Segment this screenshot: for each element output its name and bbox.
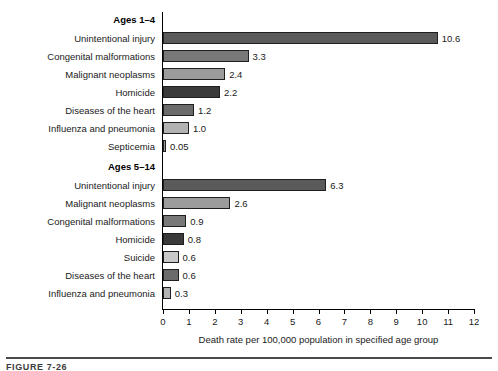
bar [163, 215, 186, 227]
x-tick [267, 310, 268, 314]
x-tick-label: 8 [360, 316, 380, 328]
x-tick [370, 310, 371, 314]
bar-row: Diseases of the heart0.6 [0, 268, 498, 283]
x-tick-label: 2 [205, 316, 225, 328]
bar-category-label: Malignant neoplasms [0, 67, 155, 82]
bar-value-label: 2.2 [224, 85, 237, 100]
x-tick [474, 310, 475, 314]
x-tick [215, 310, 216, 314]
x-tick-label: 1 [179, 316, 199, 328]
bar-category-label: Septicemia [0, 139, 155, 154]
bar-value-label: 6.3 [330, 178, 343, 193]
bar-category-label: Diseases of the heart [0, 103, 155, 118]
bar-row: Septicemia0.05 [0, 139, 498, 154]
x-tick-label: 3 [231, 316, 251, 328]
figure-caption: FIGURE 7-26 [6, 362, 67, 371]
bar-row: Unintentional injury6.3 [0, 178, 498, 193]
x-tick-label: 11 [438, 316, 458, 328]
bar-value-label: 3.3 [253, 49, 266, 64]
bar [163, 50, 249, 62]
x-tick [422, 310, 423, 314]
bar [163, 122, 189, 134]
x-tick-label: 7 [334, 316, 354, 328]
chart-plot-area: Ages 1–4Unintentional injury10.6Congenit… [0, 0, 498, 310]
bar-category-label: Diseases of the heart [0, 268, 155, 283]
bar-row: Influenza and pneumonia1.0 [0, 121, 498, 136]
panel-title-1: Ages 1–4 [0, 14, 155, 26]
bar-value-label: 0.8 [188, 232, 201, 247]
x-tick [293, 310, 294, 314]
bar [163, 86, 220, 98]
bar-row: Congenital malformations3.3 [0, 49, 498, 64]
bar-category-label: Unintentional injury [0, 31, 155, 46]
bar-value-label: 0.6 [183, 250, 196, 265]
x-tick-label: 5 [283, 316, 303, 328]
bar [163, 269, 179, 281]
x-tick-label: 10 [412, 316, 432, 328]
bar [163, 251, 179, 263]
x-tick [189, 310, 190, 314]
bar-row: Malignant neoplasms2.4 [0, 67, 498, 82]
panel-title-2: Ages 5–14 [0, 161, 155, 173]
caption-divider [6, 357, 492, 359]
bar-value-label: 0.6 [183, 268, 196, 283]
x-tick [344, 310, 345, 314]
bar-category-label: Unintentional injury [0, 178, 155, 193]
bar-row: Homicide2.2 [0, 85, 498, 100]
bar-value-label: 1.0 [193, 121, 206, 136]
bar-value-label: 0.9 [190, 214, 203, 229]
x-tick [448, 310, 449, 314]
bar-row: Homicide0.8 [0, 232, 498, 247]
x-tick-label: 4 [257, 316, 277, 328]
x-tick-label: 6 [309, 316, 329, 328]
bar [163, 287, 171, 299]
bar-category-label: Suicide [0, 250, 155, 265]
bar-category-label: Homicide [0, 85, 155, 100]
bar-value-label: 1.2 [198, 103, 211, 118]
bar-row: Influenza and pneumonia0.3 [0, 286, 498, 301]
bar [163, 68, 225, 80]
bar-category-label: Influenza and pneumonia [0, 121, 155, 136]
bar-value-label: 0.05 [170, 139, 189, 154]
bar [163, 140, 166, 152]
bar-row: Malignant neoplasms2.6 [0, 196, 498, 211]
bar-row: Unintentional injury10.6 [0, 31, 498, 46]
bar-row: Diseases of the heart1.2 [0, 103, 498, 118]
x-tick [241, 310, 242, 314]
bar-value-label: 2.4 [229, 67, 242, 82]
bar [163, 179, 326, 191]
bar-category-label: Congenital malformations [0, 214, 155, 229]
bar-value-label: 2.6 [234, 196, 247, 211]
x-tick [396, 310, 397, 314]
x-tick-label: 0 [153, 316, 173, 328]
bar-value-label: 10.6 [442, 31, 461, 46]
bar-category-label: Congenital malformations [0, 49, 155, 64]
x-tick-label: 12 [464, 316, 484, 328]
bar-category-label: Influenza and pneumonia [0, 286, 155, 301]
x-axis-title: Death rate per 100,000 population in spe… [162, 334, 475, 345]
bar-category-label: Malignant neoplasms [0, 196, 155, 211]
bar [163, 32, 438, 44]
bar-category-label: Homicide [0, 232, 155, 247]
bar [163, 233, 184, 245]
bar-row: Congenital malformations0.9 [0, 214, 498, 229]
bar [163, 197, 230, 209]
bar-value-label: 0.3 [175, 286, 188, 301]
figure-container: Ages 1–4Unintentional injury10.6Congenit… [0, 0, 498, 371]
x-tick [163, 310, 164, 314]
x-tick [319, 310, 320, 314]
bar [163, 104, 194, 116]
bar-row: Suicide0.6 [0, 250, 498, 265]
x-tick-label: 9 [386, 316, 406, 328]
